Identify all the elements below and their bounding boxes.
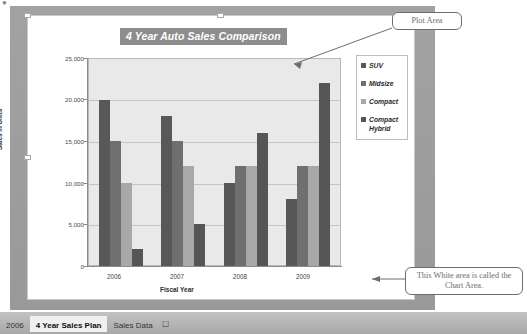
bar-hybrid-2007[interactable] <box>194 224 205 266</box>
bar-series-container <box>88 58 341 266</box>
y-tick-label: 25,000 <box>48 55 84 62</box>
bar-group-2009 <box>286 58 330 266</box>
y-tick-mark <box>83 224 87 225</box>
x-tick-label-2006: 2006 <box>92 273 136 280</box>
sheet-tab-bar: 2006 4 Year Sales Plan Sales Data ☐ ◀ <box>0 312 527 334</box>
legend-swatch-icon <box>361 63 366 68</box>
legend-swatch-icon <box>361 81 366 86</box>
y-tick-mark <box>83 141 87 142</box>
y-axis-tick-labels: 25,000 20,000 15,000 10,000 5,000 0 <box>44 0 84 334</box>
legend-item-suv[interactable]: SUV <box>361 61 403 70</box>
bar-hybrid-2008[interactable] <box>257 133 268 266</box>
bar-compact-2009[interactable] <box>308 166 319 266</box>
y-tick-label: 20,000 <box>48 96 84 103</box>
bar-midsize-2006[interactable] <box>110 141 121 266</box>
sheet-tab-4-year-sales-plan[interactable]: 4 Year Sales Plan <box>30 316 108 332</box>
x-axis-title[interactable]: Fiscal Year <box>160 286 194 293</box>
insert-worksheet-icon[interactable]: ☐ <box>159 316 173 332</box>
legend-label: SUV <box>369 61 383 70</box>
excel-chart-screenshot: 4 Year Auto Sales Comparison 25,000 20,0… <box>0 0 527 334</box>
sheet-tab-list: 2006 4 Year Sales Plan Sales Data ☐ <box>0 316 173 332</box>
legend-item-compact-hybrid[interactable]: Compact Hybrid <box>361 115 403 133</box>
y-tick-label: 15,000 <box>48 138 84 145</box>
y-tick-mark <box>83 266 87 267</box>
callout-plot-area: Plot Area <box>392 12 462 30</box>
x-axis-line <box>87 266 342 267</box>
y-tick-label: 5,000 <box>48 221 84 228</box>
sheet-tab-sales-data[interactable]: Sales Data <box>107 316 158 332</box>
y-tick-mark <box>83 183 87 184</box>
chart-legend[interactable]: SUV Midsize Compact Compact Hybrid <box>356 55 408 140</box>
bar-group-2006 <box>99 58 143 266</box>
sheet-tab-2006[interactable]: 2006 <box>0 316 30 332</box>
bar-compact-2008[interactable] <box>246 166 257 266</box>
y-tick-label: 0 <box>48 263 84 270</box>
x-tick-label-2008: 2008 <box>218 273 262 280</box>
bar-compact-2007[interactable] <box>183 166 194 266</box>
bar-hybrid-2009[interactable] <box>319 83 330 266</box>
legend-swatch-icon <box>361 117 366 122</box>
legend-label: Compact <box>369 97 398 106</box>
legend-label: Compact Hybrid <box>369 115 403 133</box>
y-tick-mark <box>83 99 87 100</box>
bar-group-2007 <box>161 58 205 266</box>
legend-swatch-icon <box>361 99 366 104</box>
plot-area[interactable] <box>88 58 341 266</box>
bar-midsize-2009[interactable] <box>297 166 308 266</box>
x-tick-label-2007: 2007 <box>155 273 199 280</box>
bar-suv-2008[interactable] <box>224 183 235 266</box>
bar-midsize-2007[interactable] <box>172 141 183 266</box>
bar-suv-2006[interactable] <box>99 100 110 266</box>
page-top-stray-mark: ● <box>2 0 7 7</box>
legend-item-midsize[interactable]: Midsize <box>361 79 403 88</box>
y-tick-label: 10,000 <box>48 180 84 187</box>
bar-hybrid-2006[interactable] <box>132 249 143 266</box>
y-tick-mark <box>83 58 87 59</box>
legend-label: Midsize <box>369 79 394 88</box>
y-axis-title[interactable]: Sales in Units <box>0 109 3 150</box>
bar-midsize-2008[interactable] <box>235 166 246 266</box>
bar-compact-2006[interactable] <box>121 183 132 266</box>
bar-suv-2007[interactable] <box>161 116 172 266</box>
bar-suv-2009[interactable] <box>286 199 297 266</box>
chart-title[interactable]: 4 Year Auto Sales Comparison <box>120 28 287 45</box>
callout-chart-area: This White area is called the Chart Area… <box>405 267 523 295</box>
legend-item-compact[interactable]: Compact <box>361 97 403 106</box>
bar-group-2008 <box>224 58 268 266</box>
x-tick-label-2009: 2009 <box>281 273 325 280</box>
